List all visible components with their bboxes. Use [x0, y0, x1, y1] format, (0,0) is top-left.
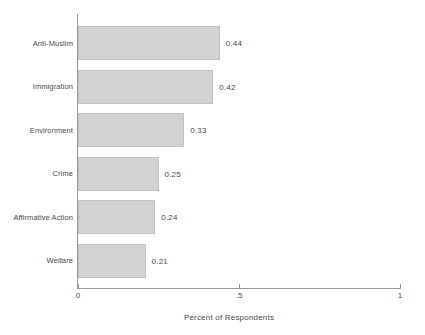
category-label-text: Affirmative Action: [13, 213, 73, 222]
bar-row: 0.24: [78, 200, 425, 234]
bar-value-label: 0.33: [190, 126, 206, 135]
x-axis-title-text: Percent of Respondents: [184, 313, 274, 322]
x-tick-label: 0: [76, 291, 80, 300]
category-label-environment: Environment: [0, 113, 73, 147]
bar: [78, 26, 220, 60]
bar-row: 0.25: [78, 157, 425, 191]
bar: [78, 200, 155, 234]
bar: [78, 244, 146, 278]
bar: [78, 70, 213, 104]
category-label-text: Anti-Muslim: [33, 39, 73, 48]
category-label-crime: Crime: [0, 157, 73, 191]
bar-value-label: 0.25: [165, 169, 181, 178]
category-label-affirmative-action: Affirmative Action: [0, 200, 73, 234]
x-tick-label: 1: [398, 291, 402, 300]
bar-row: 0.44: [78, 26, 425, 60]
x-axis-title: Percent of Respondents: [0, 313, 425, 322]
x-tick-label: .5: [236, 291, 243, 300]
category-label-welfare: Welfare: [0, 244, 73, 278]
category-label-text: Immigration: [33, 82, 73, 91]
x-tick-mark: [78, 284, 79, 289]
x-tick-mark: [239, 284, 240, 289]
bar-row: 0.42: [78, 70, 425, 104]
x-tick-mark: [400, 284, 401, 289]
bar-row: 0.33: [78, 113, 425, 147]
category-label-anti-muslim: Anti-Muslim: [0, 26, 73, 60]
bar-value-label: 0.44: [226, 39, 242, 48]
bar-value-label: 0.21: [152, 256, 168, 265]
category-label-immigration: Immigration: [0, 70, 73, 104]
bar-row: 0.21: [78, 244, 425, 278]
bar: [78, 113, 184, 147]
category-label-text: Welfare: [47, 256, 73, 265]
category-label-text: Environment: [30, 126, 73, 135]
bar: [78, 157, 159, 191]
category-label-text: Crime: [53, 169, 74, 178]
bar-chart: 0.440.420.330.250.240.21 Anti-MuslimImmi…: [0, 0, 425, 335]
bar-value-label: 0.42: [219, 82, 235, 91]
bar-value-label: 0.24: [161, 213, 177, 222]
